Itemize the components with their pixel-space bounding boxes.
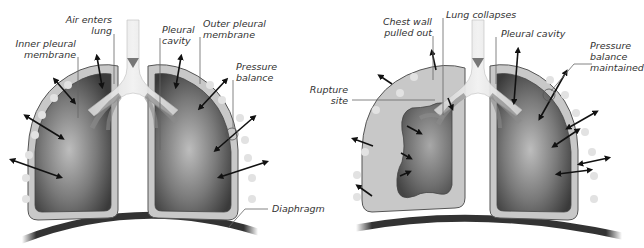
label-rupture-site: Rupture site	[306, 84, 348, 106]
label-pressure-balance: Pressure balance	[236, 61, 277, 83]
label-pleural-cavity-2: Pleural cavity	[501, 28, 565, 39]
pneumothorax-panel	[352, 18, 622, 236]
label-lung-collapses: Lung collapses	[446, 9, 516, 20]
label-pressure-balance-maintained: Pressure balance maintained	[590, 40, 644, 73]
label-diaphragm: Diaphragm	[272, 203, 325, 214]
label-chest-wall-pulled-out: Chest wall pulled out	[372, 16, 432, 38]
label-pleural-cavity: Pleural cavity	[162, 24, 195, 46]
label-outer-pleural-membrane: Outer pleural membrane	[203, 18, 266, 40]
diaphragm-right	[356, 218, 622, 236]
label-air-enters-lung: Air enters lung	[60, 14, 112, 36]
label-inner-pleural-membrane: Inner pleural membrane	[10, 38, 76, 60]
